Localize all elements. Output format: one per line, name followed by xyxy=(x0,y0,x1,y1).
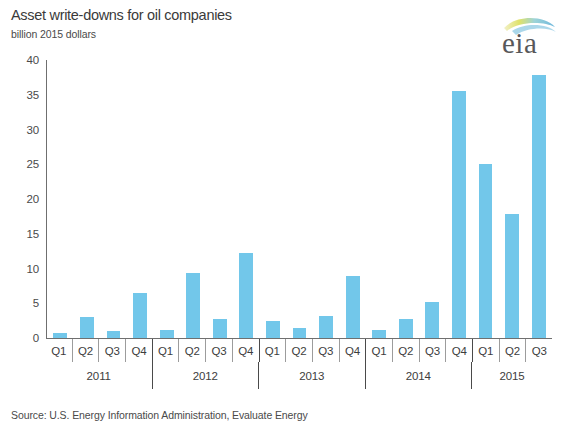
bar[interactable] xyxy=(479,164,493,338)
year-label: 2013 xyxy=(259,362,366,389)
bars-area xyxy=(46,60,552,338)
y-axis-tick-label: 10 xyxy=(27,263,39,274)
bar-slot xyxy=(260,60,287,338)
figure-header: Asset write-downs for oil companies bill… xyxy=(11,6,481,42)
bar[interactable] xyxy=(80,317,94,338)
quarter-label: Q3 xyxy=(313,339,340,362)
year-label: 2012 xyxy=(153,362,260,389)
bar-slot xyxy=(206,60,233,338)
eia-logo-graphic: eia xyxy=(486,8,560,56)
bar[interactable] xyxy=(399,319,413,338)
bar-slot xyxy=(47,60,74,338)
year-label: 2015 xyxy=(472,362,552,389)
y-axis-tick-label: 20 xyxy=(27,194,39,205)
bar-slot xyxy=(74,60,101,338)
quarter-label: Q1 xyxy=(366,339,393,362)
year-label: 2011 xyxy=(46,362,153,389)
year-label: 2014 xyxy=(366,362,473,389)
bar-slot xyxy=(286,60,313,338)
quarter-label: Q3 xyxy=(526,339,552,362)
bar[interactable] xyxy=(239,253,253,338)
bar-slot xyxy=(180,60,207,338)
bar[interactable] xyxy=(133,293,147,338)
y-axis: 0510152025303540 xyxy=(0,60,46,338)
bar[interactable] xyxy=(425,302,439,338)
bar-slot xyxy=(499,60,526,338)
bar-slot xyxy=(339,60,366,338)
bar[interactable] xyxy=(372,330,386,338)
quarter-label: Q2 xyxy=(286,339,313,362)
bar[interactable] xyxy=(160,330,174,338)
bar-slot xyxy=(525,60,552,338)
quarter-label: Q3 xyxy=(99,339,126,362)
quarter-axis-labels: Q1Q2Q3Q4Q1Q2Q3Q4Q1Q2Q3Q4Q1Q2Q3Q4Q1Q2Q3 xyxy=(46,339,552,362)
bar-slot xyxy=(313,60,340,338)
quarter-label: Q4 xyxy=(340,339,367,362)
y-axis-tick-label: 25 xyxy=(27,159,39,170)
y-axis-tick-label: 5 xyxy=(33,298,39,309)
bar-slot xyxy=(419,60,446,338)
quarter-label: Q1 xyxy=(153,339,180,362)
bar-series xyxy=(47,60,552,338)
chart-subtitle-units: billion 2015 dollars xyxy=(11,27,481,42)
eia-wordmark: eia xyxy=(502,27,537,56)
bar-slot xyxy=(472,60,499,338)
bar-slot xyxy=(153,60,180,338)
quarter-label: Q2 xyxy=(179,339,206,362)
source-note: Source: U.S. Energy Information Administ… xyxy=(11,409,308,421)
bar-slot xyxy=(233,60,260,338)
bar[interactable] xyxy=(505,214,519,338)
bar[interactable] xyxy=(346,276,360,338)
bar[interactable] xyxy=(186,273,200,338)
y-axis-tick-label: 35 xyxy=(27,89,39,100)
bar-slot xyxy=(446,60,473,338)
quarter-label: Q3 xyxy=(206,339,233,362)
bar-slot xyxy=(366,60,393,338)
bar-slot xyxy=(393,60,420,338)
bar[interactable] xyxy=(266,321,280,338)
bar-slot xyxy=(127,60,154,338)
bar[interactable] xyxy=(213,319,227,338)
bar[interactable] xyxy=(319,316,333,338)
quarter-label: Q2 xyxy=(393,339,420,362)
page-title: Asset write-downs for oil companies xyxy=(11,6,481,25)
bar[interactable] xyxy=(293,328,307,338)
bar[interactable] xyxy=(107,331,121,338)
eia-logo: eia xyxy=(486,8,560,56)
quarter-label: Q4 xyxy=(126,339,153,362)
chart-plot-area: 0510152025303540 Q1Q2Q3Q4Q1Q2Q3Q4Q1Q2Q3Q… xyxy=(0,60,566,400)
quarter-label: Q2 xyxy=(500,339,527,362)
bar-slot xyxy=(100,60,127,338)
y-axis-tick-label: 40 xyxy=(27,55,39,66)
y-axis-tick-label: 0 xyxy=(33,333,39,344)
bar[interactable] xyxy=(532,75,546,338)
quarter-label: Q1 xyxy=(260,339,287,362)
bar[interactable] xyxy=(452,91,466,338)
y-axis-tick-label: 15 xyxy=(27,228,39,239)
quarter-label: Q4 xyxy=(446,339,473,362)
y-axis-tick-label: 30 xyxy=(27,124,39,135)
quarter-label: Q1 xyxy=(473,339,500,362)
quarter-label: Q4 xyxy=(233,339,260,362)
quarter-label: Q3 xyxy=(420,339,447,362)
quarter-label: Q2 xyxy=(73,339,100,362)
quarter-label: Q1 xyxy=(46,339,73,362)
year-axis-labels: 20112012201320142015 xyxy=(46,362,552,389)
